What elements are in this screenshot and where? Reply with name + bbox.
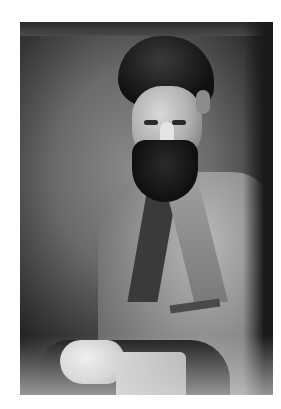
photo-bottom-fade [20,335,273,395]
photo-top-edge [20,22,273,36]
eye-left [144,120,158,125]
portrait-photo [20,22,273,395]
eye-right [172,120,186,125]
ear [196,90,210,114]
